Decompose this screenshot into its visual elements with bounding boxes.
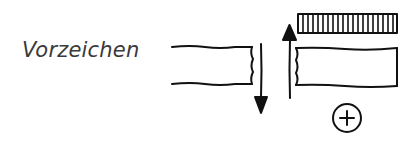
down-arrow-icon <box>255 44 267 113</box>
hatched-stress-bar <box>298 14 397 33</box>
up-arrow-icon <box>283 25 296 98</box>
right-beam-section <box>296 48 397 87</box>
plus-sign-icon <box>333 104 361 132</box>
sign-convention-diagram <box>0 0 416 146</box>
left-beam-section <box>172 46 253 85</box>
